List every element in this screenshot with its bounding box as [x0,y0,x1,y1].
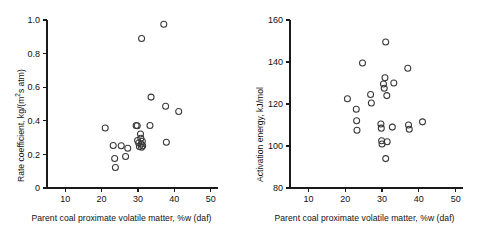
x-tick-label: 50 [206,194,216,204]
data-point-marker [384,93,390,99]
data-point-marker [148,94,154,100]
data-point-marker [383,39,389,45]
axis-frame [290,20,463,188]
data-point-marker [161,21,167,27]
data-point-marker [368,100,374,106]
data-point-marker [382,75,388,81]
activation-energy-y-axis-title: Activation energy, kJ/mol [255,87,265,182]
y-tick-label: 0.2 [27,150,40,160]
y-tick-label: 160 [268,15,283,25]
data-point-marker [123,153,129,159]
axis-frame [47,20,218,188]
rate-coefficient-x-axis-title: Parent coal proximate volatile matter, %… [0,213,243,223]
x-tick-label: 40 [169,194,179,204]
y-tick-label: 1.0 [27,15,40,25]
x-tick-label: 50 [451,194,461,204]
y-tick-label: 140 [268,57,283,67]
data-point-marker [389,124,395,130]
data-point-marker [176,109,182,115]
activation-energy-x-axis-title: Parent coal proximate volatile matter, %… [243,213,486,223]
x-tick-label: 20 [97,194,107,204]
data-point-marker [420,119,426,125]
data-point-marker [378,125,384,131]
data-point-marker [354,118,360,124]
rate-coefficient-plot-area: 00.20.40.60.81.01020304050 [0,0,243,240]
x-tick-label: 40 [414,194,424,204]
data-point-marker [139,35,145,41]
y-tick-label: 80 [273,183,283,193]
two-panel-scatter-figure: 00.20.40.60.81.01020304050 Parent coal p… [0,0,486,240]
data-point-marker [163,139,169,145]
data-point-marker [368,92,374,98]
y-tick-label: 100 [268,141,283,151]
data-point-marker [344,96,350,102]
data-point-marker [360,60,366,66]
activation-energy-plot-area: 801001201401601020304050 [243,0,486,240]
data-point-marker [163,103,169,109]
y-tick-label: 0.4 [27,116,40,126]
y-tick-label: 0.8 [27,49,40,59]
activation-energy-panel: 801001201401601020304050 Parent coal pro… [243,0,486,240]
data-point-marker [354,127,360,133]
x-tick-label: 10 [60,194,70,204]
data-point-marker [110,143,116,149]
rate-coefficient-y-axis-title: Rate coefficient, kg/(m2s atm) [14,69,26,182]
y-tick-label: 120 [268,99,283,109]
data-point-marker [391,80,397,86]
x-tick-label: 30 [377,194,387,204]
data-point-marker [406,126,412,132]
data-point-marker [405,65,411,71]
data-point-marker [353,106,359,112]
y-tick-label: 0 [35,183,40,193]
x-tick-label: 20 [340,194,350,204]
data-point-marker [383,156,389,162]
x-tick-label: 30 [133,194,143,204]
data-point-marker [384,139,390,145]
y-tick-label: 0.6 [27,82,40,92]
data-point-marker [118,143,124,149]
data-point-marker [381,85,387,91]
data-point-marker [147,123,153,129]
data-point-marker [112,155,118,161]
rate-coefficient-panel: 00.20.40.60.81.01020304050 Parent coal p… [0,0,243,240]
x-tick-label: 10 [303,194,313,204]
data-point-marker [125,145,131,151]
data-point-marker [112,165,118,171]
data-point-marker [102,125,108,131]
